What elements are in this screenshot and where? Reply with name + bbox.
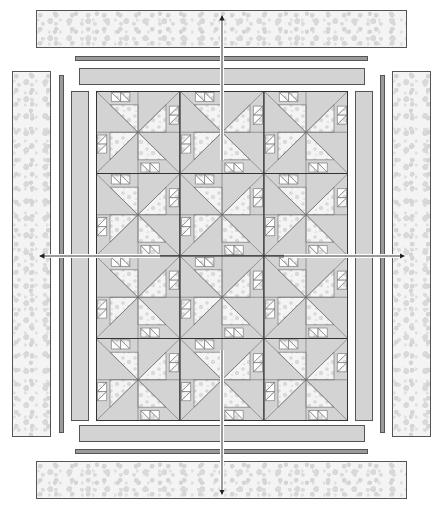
assembly-arrows [0, 0, 444, 510]
quilt-diagram [0, 0, 444, 510]
